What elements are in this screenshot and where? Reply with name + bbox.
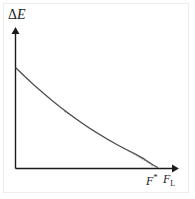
plot-canvas [0, 0, 195, 199]
figure-container: ΔE F* FL [0, 0, 195, 199]
y-axis-label-delta: Δ [8, 7, 17, 22]
y-axis-label: ΔE [8, 8, 26, 22]
f-star-marker-label: F* [146, 173, 158, 187]
x-axis-label-subscript: L [170, 179, 175, 188]
x-axis-label: FL [163, 173, 175, 188]
y-axis-label-symbol: E [17, 7, 26, 22]
f-star-superscript: * [153, 172, 158, 182]
energy-barrier-curve [16, 68, 158, 168]
